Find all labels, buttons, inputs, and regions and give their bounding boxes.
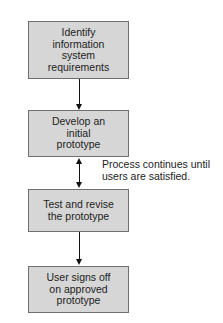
step-test-revise: Test and revise the prototype	[28, 189, 129, 232]
step-label-line: Test and revise	[43, 199, 114, 211]
annotation-line: Process continues until	[102, 159, 210, 171]
step-label: User signs off on approved prototype	[47, 272, 111, 307]
arrow-down-icon	[76, 182, 82, 188]
step-label: Develop an initial prototype	[52, 116, 105, 151]
step-label-line: requirements	[48, 62, 109, 74]
connector-line	[79, 232, 80, 260]
loop-annotation: Process continues until users are satisf…	[102, 159, 210, 182]
arrow-down-icon	[76, 259, 82, 265]
step-label-line: prototype	[52, 139, 105, 151]
connector-line	[79, 163, 80, 183]
annotation-line: users are satisfied.	[102, 171, 210, 183]
step-label-line: Identify	[48, 27, 109, 39]
step-develop-prototype: Develop an initial prototype	[28, 110, 129, 157]
step-label: Identify information system requirements	[48, 27, 109, 73]
step-label-line: prototype	[47, 295, 111, 307]
connector-line	[79, 79, 80, 105]
step-label: Test and revise the prototype	[43, 199, 114, 222]
step-label-line: system	[48, 50, 109, 62]
step-user-signoff: User signs off on approved prototype	[28, 266, 129, 313]
step-identify-requirements: Identify information system requirements	[28, 21, 129, 79]
step-label-line: the prototype	[43, 211, 114, 223]
